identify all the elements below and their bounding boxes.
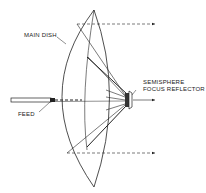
feed xyxy=(11,98,125,102)
main-dish-leader xyxy=(57,37,66,44)
main-dish-label: MAIN DISH xyxy=(24,32,57,38)
semisphere-focus-reflector xyxy=(125,91,132,109)
semisphere-label-line1: SEMISPHERE xyxy=(143,79,184,85)
antenna-diagram: MAIN DISH SEMISPHERE FOCUS REFLECTOR FEE… xyxy=(0,0,206,193)
feed-leader xyxy=(39,102,50,112)
semisphere-label-line2: FOCUS REFLECTOR xyxy=(143,86,205,92)
reflector-leader xyxy=(132,90,136,95)
main-dish-outer-arc xyxy=(62,10,94,187)
dish-inner-line xyxy=(85,10,94,150)
feed-label: FEED xyxy=(18,111,35,117)
main-dish-rim-arc xyxy=(94,10,110,187)
reflected-rays xyxy=(67,24,127,153)
